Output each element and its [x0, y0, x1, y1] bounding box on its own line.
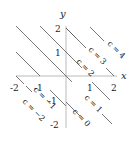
y-axis-label: y: [59, 8, 66, 19]
x-tick-2: 2: [111, 83, 117, 93]
svg-text:c = 4: c = 4: [106, 39, 127, 60]
x-tick-1: 1: [87, 83, 93, 93]
y-tick-neg2: -2: [50, 120, 59, 130]
svg-text:c = 3: c = 3: [87, 45, 108, 66]
svg-text:c = 1: c = 1: [83, 93, 104, 114]
x-tick-neg2: -2: [10, 83, 19, 93]
y-tick-1: 1: [55, 48, 61, 58]
level-line-c-0: c = 0: [16, 26, 92, 129]
level-curves-diagram: x y -2 -1 1 2 2 1 -1 -2 c = −2 c = −1 c …: [0, 0, 137, 141]
svg-text:c = 2: c = 2: [75, 57, 96, 78]
y-tick-2: 2: [55, 24, 61, 34]
x-axis-label: x: [121, 70, 127, 81]
